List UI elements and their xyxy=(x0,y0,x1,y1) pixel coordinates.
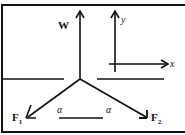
force-diagram: W y x F1 F2 α α xyxy=(0,0,185,135)
angle-alpha-left-label: α xyxy=(57,104,63,115)
force-f1-arrow xyxy=(26,79,80,118)
x-axis-label: x xyxy=(169,58,175,69)
force-w-label: W xyxy=(58,19,69,31)
angle-alpha-right-label: α xyxy=(106,104,112,115)
force-f1-label: F1 xyxy=(12,111,23,126)
force-f2-arrow xyxy=(80,79,147,118)
force-f2-label: F2 xyxy=(151,111,162,126)
y-axis-label: y xyxy=(120,14,126,25)
